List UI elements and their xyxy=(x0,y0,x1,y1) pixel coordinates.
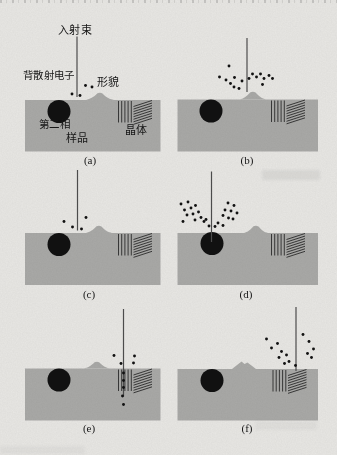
panel-d xyxy=(178,172,319,286)
panel-b xyxy=(178,38,319,152)
backscattered-electron-dots xyxy=(218,65,274,90)
panel-c xyxy=(25,170,161,285)
topography-label: 形貌 xyxy=(97,77,120,88)
panel-caption-e: (e) xyxy=(71,422,107,434)
sample-label: 样品 xyxy=(66,133,89,144)
second-phase-particle xyxy=(201,369,224,392)
panel-caption-c: (c) xyxy=(71,288,107,300)
second-phase-particle xyxy=(48,369,71,392)
bse-signal-diagram-canvas xyxy=(0,0,337,455)
topography-bump xyxy=(240,92,266,100)
scan-artifact-bleedthrough xyxy=(0,446,85,454)
second-phase-label: 第二相 xyxy=(39,119,70,130)
panel-caption-d: (d) xyxy=(228,288,264,300)
scan-artifact-bleedthrough xyxy=(262,170,320,180)
panel-caption-b: (b) xyxy=(229,154,265,166)
topography-bump xyxy=(84,362,110,369)
backscattered-electron-dots xyxy=(71,84,94,97)
incident-beam-label: 入射束 xyxy=(58,25,92,36)
backscattered-electron-dots xyxy=(63,216,88,230)
second-phase-particle xyxy=(200,100,223,123)
second-phase-particle xyxy=(48,233,71,256)
topography-bump xyxy=(232,362,256,370)
topography-bump xyxy=(86,226,112,233)
scan-artifact-bleedthrough xyxy=(255,421,317,430)
panel-e xyxy=(25,309,161,421)
backscattered-electrons-label: 背散射电子 xyxy=(23,70,75,81)
panel-f xyxy=(178,307,319,421)
topography-bump xyxy=(86,93,114,100)
topography-bump xyxy=(244,226,268,233)
textbook-figure-page: 入射束 背散射电子 形貌 第二相 样品 晶体 (a) (b) (c) (d) (… xyxy=(0,0,337,455)
backscattered-electron-dots xyxy=(180,201,239,228)
backscattered-electron-dots xyxy=(265,333,315,367)
scan-artifact-top-edge xyxy=(0,0,337,3)
crystal-label: 晶体 xyxy=(125,125,148,136)
panel-caption-a: (a) xyxy=(72,154,108,166)
